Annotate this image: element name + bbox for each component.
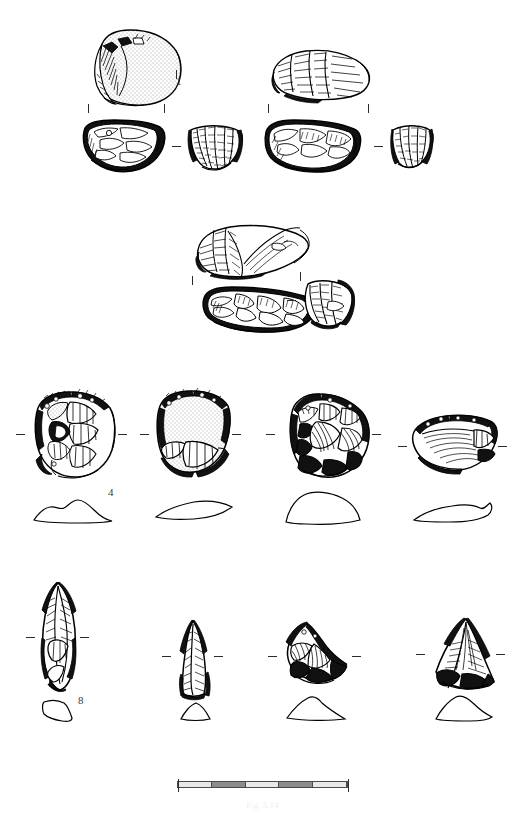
orientation-tick xyxy=(16,434,25,435)
orientation-tick xyxy=(268,104,269,113)
orientation-tick xyxy=(192,276,193,285)
core-2-end-view xyxy=(390,124,435,172)
orientation-tick xyxy=(214,656,223,657)
figure-caption: Fig. 3.14 xyxy=(177,800,348,810)
scale-bar xyxy=(177,781,348,788)
scraper-4-plan-view xyxy=(28,388,120,482)
point-9-profile xyxy=(178,700,214,722)
orientation-tick xyxy=(118,434,127,435)
orientation-tick xyxy=(352,656,361,657)
point-8-plan-view xyxy=(38,580,82,694)
scraper-5-plan-view xyxy=(152,388,234,480)
orientation-tick xyxy=(164,104,165,113)
orientation-tick xyxy=(374,146,383,147)
core-1-end-view xyxy=(187,124,245,174)
orientation-tick xyxy=(416,654,425,655)
scale-segment xyxy=(212,782,246,787)
scale-end-cap-left xyxy=(178,779,179,792)
orientation-tick xyxy=(88,104,89,113)
point-8-profile xyxy=(40,698,80,724)
scale-segment xyxy=(246,782,280,787)
orientation-tick xyxy=(140,434,149,435)
core-3-end-view xyxy=(298,278,355,330)
scale-segment xyxy=(313,782,347,787)
orientation-tick xyxy=(300,272,301,281)
scale-segment xyxy=(279,782,313,787)
orientation-tick xyxy=(372,434,381,435)
orientation-tick xyxy=(398,446,407,447)
orientation-tick xyxy=(287,300,296,301)
item-number-8: 8 xyxy=(78,695,84,706)
orientation-tick xyxy=(26,637,35,638)
scraper-6-plan-view xyxy=(278,390,374,486)
point-9-plan-view xyxy=(176,618,214,700)
point-10-profile xyxy=(284,694,348,722)
scale-segment xyxy=(178,782,212,787)
orientation-tick xyxy=(496,654,505,655)
scraper-7-plan-view xyxy=(408,410,500,476)
scale-end-cap-right xyxy=(348,779,349,792)
core-1-dorsal-view xyxy=(88,26,188,110)
scraper-6-profile xyxy=(282,490,366,526)
scraper-4-profile xyxy=(32,496,116,524)
point-11-plan-view xyxy=(430,616,496,694)
item-number-1: 1 xyxy=(176,76,182,87)
orientation-tick xyxy=(172,146,181,147)
figure-plate: 1 4 8 Fig. 3.14 xyxy=(0,0,524,817)
orientation-tick xyxy=(498,446,507,447)
scraper-7-profile xyxy=(412,500,496,524)
core-2-section-view xyxy=(262,118,364,176)
point-11-profile xyxy=(432,694,494,722)
orientation-tick xyxy=(162,656,171,657)
scraper-5-profile xyxy=(154,498,236,522)
orientation-tick xyxy=(268,656,277,657)
orientation-tick xyxy=(80,637,89,638)
core-1-section-view xyxy=(80,118,168,176)
point-10-plan-view xyxy=(282,620,352,690)
item-number-4: 4 xyxy=(108,487,114,498)
core-3-dorsal-view xyxy=(192,222,312,284)
core-2-dorsal-view xyxy=(268,48,375,106)
orientation-tick xyxy=(232,434,241,435)
orientation-tick xyxy=(368,104,369,113)
orientation-tick xyxy=(266,434,275,435)
